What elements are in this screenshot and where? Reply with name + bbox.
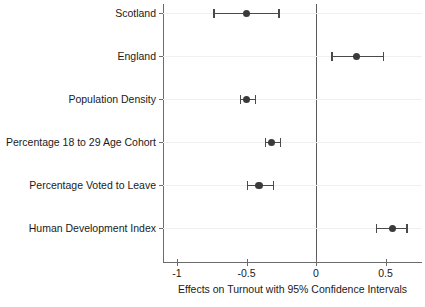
- x-axis-tick-label: -0.5: [237, 267, 255, 279]
- x-axis-tick-label: 0.5: [378, 267, 393, 279]
- confidence-interval-cap-high: [406, 224, 407, 233]
- x-axis-tick: [316, 259, 317, 266]
- confidence-interval-cap-low: [213, 9, 214, 18]
- confidence-interval-cap-high: [273, 181, 274, 190]
- estimate-point: [243, 10, 251, 18]
- confidence-interval-cap-high: [280, 138, 281, 147]
- confidence-interval-cap-high: [383, 52, 384, 61]
- x-axis-tick: [247, 259, 248, 266]
- y-axis-line: [163, 4, 164, 263]
- x-axis-title: Effects on Turnout with 95% Confidence I…: [163, 283, 422, 295]
- category-label: Human Development Index: [0, 222, 160, 234]
- estimate-point: [353, 53, 361, 61]
- confidence-interval-cap-high: [255, 95, 256, 104]
- category-label: Scotland: [0, 7, 160, 19]
- x-axis-tick-label: -1: [172, 267, 181, 279]
- coefficient-plot: ScotlandEnglandPopulation DensityPercent…: [0, 0, 425, 307]
- category-label: England: [0, 50, 160, 62]
- estimate-point: [243, 96, 251, 104]
- confidence-interval-cap-high: [278, 9, 279, 18]
- gridline: [163, 99, 422, 100]
- estimate-point: [268, 139, 276, 147]
- confidence-interval-cap-low: [240, 95, 241, 104]
- confidence-interval-cap-low: [331, 52, 332, 61]
- zero-reference-line: [316, 4, 317, 263]
- gridline: [163, 13, 422, 14]
- category-label: Percentage Voted to Leave: [0, 179, 160, 191]
- category-label: Population Density: [0, 93, 160, 105]
- x-axis-tick: [177, 259, 178, 266]
- confidence-interval-cap-low: [247, 181, 248, 190]
- confidence-interval-cap-low: [376, 224, 377, 233]
- x-axis-tick-label: 0: [313, 267, 319, 279]
- estimate-point: [255, 182, 263, 190]
- gridline: [163, 185, 422, 186]
- category-label: Percentage 18 to 29 Age Cohort: [0, 136, 160, 148]
- gridline: [163, 142, 422, 143]
- x-axis-tick: [386, 259, 387, 266]
- estimate-point: [389, 225, 397, 233]
- confidence-interval-cap-low: [265, 138, 266, 147]
- x-axis-line: [163, 262, 422, 263]
